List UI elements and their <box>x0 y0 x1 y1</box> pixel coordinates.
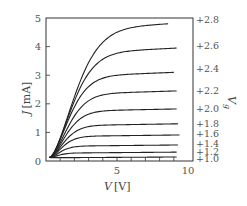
x-tick-label: 5 <box>114 165 120 176</box>
series-labels: +2.8+2.6+2.4+2.2+2.0+1.8+1.6+1.4+1.2+1.0 <box>196 14 219 164</box>
series-label: +2.8 <box>196 14 219 25</box>
y-ticks: 012345 <box>35 13 50 167</box>
curve-vg-1-4 <box>50 145 179 158</box>
y-tick-label: 2 <box>35 98 41 109</box>
y-tick-label: 1 <box>35 127 41 138</box>
y-tick-label: 4 <box>35 41 41 52</box>
series-label: +2.0 <box>196 103 219 114</box>
y-tick-label: 5 <box>35 13 41 24</box>
curve-vg-2-8 <box>50 24 169 158</box>
x-tick-label: 10 <box>182 165 195 176</box>
curve-vg-2-6 <box>50 48 177 158</box>
series-label: +2.6 <box>196 40 219 51</box>
x-axis-label: V[V] <box>104 180 130 193</box>
curve-vg-1-6 <box>50 135 180 158</box>
y-axis-label: J[mA] <box>20 82 33 117</box>
iv-characteristic-chart: 510 012345 +2.8+2.6+2.4+2.2+2.0+1.8+1.6+… <box>0 0 247 206</box>
curve-vg-1-0 <box>50 157 177 158</box>
series-label: +2.2 <box>196 85 219 96</box>
series-label: +1.0 <box>196 153 219 164</box>
curves-group <box>50 24 180 158</box>
series-variable-label: Vg <box>223 96 238 109</box>
y-tick-label: 0 <box>35 156 41 167</box>
plot-frame <box>46 18 193 161</box>
x-ticks: 510 <box>60 157 194 176</box>
y-tick-label: 3 <box>35 70 41 81</box>
series-label: +2.4 <box>196 63 219 74</box>
